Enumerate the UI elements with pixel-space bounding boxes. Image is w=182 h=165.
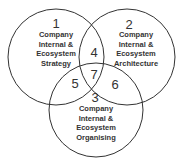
intersection-4: 4 xyxy=(90,46,97,59)
intersection-6: 6 xyxy=(111,78,118,91)
label-line: Ecosystem xyxy=(76,123,116,133)
label-line: Organising xyxy=(76,133,116,143)
label-line: Ecosystem xyxy=(114,49,158,59)
circle-3-number: 3 xyxy=(91,91,98,104)
label-line: Company xyxy=(76,104,116,114)
circle-1-number: 1 xyxy=(52,17,59,30)
label-line: Internal & xyxy=(76,114,116,124)
intersection-5: 5 xyxy=(71,77,78,90)
label-line: Strategy xyxy=(36,59,76,69)
intersection-7: 7 xyxy=(90,68,97,81)
circle-2-label: Company Internal & Ecosystem Architectur… xyxy=(114,30,158,68)
label-line: Internal & xyxy=(114,40,158,50)
circle-2-number: 2 xyxy=(125,18,132,31)
label-line: Ecosystem xyxy=(36,49,76,59)
label-line: Internal & xyxy=(36,40,76,50)
label-line: Company xyxy=(114,30,158,40)
label-line: Architecture xyxy=(114,59,158,69)
label-line: Company xyxy=(36,30,76,40)
circle-1-label: Company Internal & Ecosystem Strategy xyxy=(36,30,76,68)
circle-3-label: Company Internal & Ecosystem Organising xyxy=(76,104,116,142)
